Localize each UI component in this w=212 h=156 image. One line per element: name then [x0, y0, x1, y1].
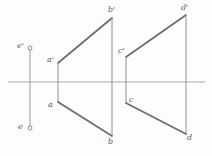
label-b-prime: b' — [108, 6, 115, 14]
label-e-prime: e' — [17, 42, 24, 50]
projection-drawing-canvas: e' e a' b' a b c' d' c d — [0, 0, 212, 156]
label-e: e — [18, 123, 23, 131]
label-c-prime: c' — [118, 47, 125, 55]
edge-c-prime-d-prime — [126, 15, 186, 57]
drawing-surface — [0, 0, 212, 156]
edge-c-d — [126, 103, 186, 134]
label-c: c — [129, 96, 133, 104]
edge-a-prime-b-prime — [58, 18, 112, 63]
e-prime-point-marker — [28, 46, 32, 50]
label-a: a — [48, 101, 53, 109]
label-b: b — [108, 138, 113, 146]
label-d-prime: d' — [181, 4, 188, 12]
e-point-marker — [28, 126, 32, 130]
label-a-prime: a' — [47, 56, 54, 64]
label-d: d — [187, 134, 192, 142]
edge-a-b — [58, 102, 112, 136]
